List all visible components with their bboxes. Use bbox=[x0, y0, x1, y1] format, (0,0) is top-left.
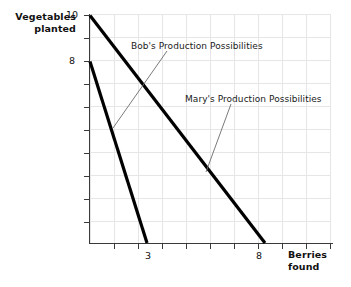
x-axis-title-line2: found bbox=[288, 261, 320, 272]
leader-line-mary bbox=[206, 104, 231, 172]
y-tick-label-10: 10 bbox=[62, 9, 82, 20]
series-label-bob: Bob's Production Possibilities bbox=[131, 41, 263, 51]
production-possibilities-chart: Vegetables planted Berries found 10 8 3 … bbox=[0, 0, 351, 287]
x-tick-label-8: 8 bbox=[249, 250, 269, 261]
leader-line-bob bbox=[113, 51, 167, 128]
x-axis-title: Berries found bbox=[288, 249, 348, 272]
y-axis-title-line2: planted bbox=[34, 23, 76, 34]
y-tick-label-8: 8 bbox=[62, 55, 82, 66]
series-label-mary: Mary's Production Possibilities bbox=[185, 94, 322, 104]
x-tick-label-3: 3 bbox=[138, 250, 158, 261]
x-axis-title-line1: Berries bbox=[288, 249, 327, 260]
